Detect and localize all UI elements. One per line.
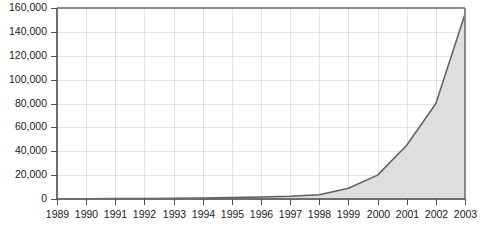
x-tick-label: 1992 xyxy=(133,208,157,220)
y-tick-label: 160,000 xyxy=(9,1,47,13)
x-tick-label: 1994 xyxy=(192,208,216,220)
y-tick-label: 80,000 xyxy=(15,97,47,109)
x-tick-label: 1989 xyxy=(46,208,70,220)
x-tick-label: 2001 xyxy=(396,208,420,220)
x-tick-label: 2003 xyxy=(454,208,478,220)
x-tick-label: 1990 xyxy=(75,208,99,220)
chart-container: 020,00040,00060,00080,000100,000120,0001… xyxy=(0,0,491,243)
y-tick-label: 0 xyxy=(41,192,47,204)
x-tick-label: 1995 xyxy=(221,208,245,220)
x-axis-tick-labels: 1989199019911992199319941995199619971998… xyxy=(46,208,478,220)
y-tick-label: 140,000 xyxy=(9,25,47,37)
x-tick-label: 1999 xyxy=(337,208,361,220)
area-chart: 020,00040,00060,00080,000100,000120,0001… xyxy=(0,0,491,243)
y-tick-label: 120,000 xyxy=(9,49,47,61)
x-tick-label: 2002 xyxy=(425,208,449,220)
y-tick-label: 20,000 xyxy=(15,168,47,180)
x-tick-label: 1993 xyxy=(163,208,187,220)
x-tick-label: 1996 xyxy=(250,208,274,220)
y-tick-label: 40,000 xyxy=(15,144,47,156)
x-tick-label: 2000 xyxy=(367,208,391,220)
y-tick-label: 60,000 xyxy=(15,120,47,132)
y-tick-label: 100,000 xyxy=(9,73,47,85)
x-tick-label: 1998 xyxy=(308,208,332,220)
y-axis-tick-labels: 020,00040,00060,00080,000100,000120,0001… xyxy=(9,1,47,204)
x-axis-ticks xyxy=(58,199,466,205)
x-tick-label: 1991 xyxy=(104,208,128,220)
y-axis-ticks xyxy=(51,9,57,200)
x-tick-label: 1997 xyxy=(279,208,303,220)
